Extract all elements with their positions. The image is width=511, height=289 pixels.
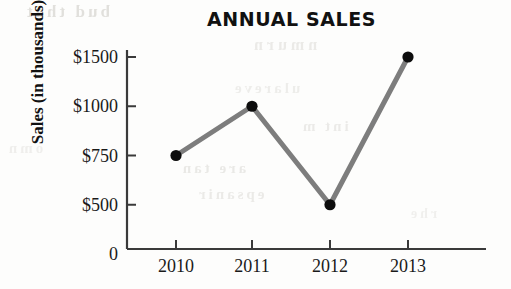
x-tick-label-2013: 2013 bbox=[363, 256, 453, 277]
chart-figure: bud that nmurn ulareve int m are tan eps… bbox=[0, 0, 511, 289]
data-point-2013 bbox=[402, 51, 413, 62]
x-tick-label-2012: 2012 bbox=[285, 256, 375, 277]
data-point-2010 bbox=[170, 150, 181, 161]
data-point-2012 bbox=[324, 199, 335, 210]
plot-area bbox=[0, 0, 511, 289]
sales-trend-line bbox=[176, 57, 408, 205]
data-point-markers bbox=[170, 51, 413, 210]
x-tick-label-2011: 2011 bbox=[207, 256, 297, 277]
data-point-2011 bbox=[246, 101, 257, 112]
